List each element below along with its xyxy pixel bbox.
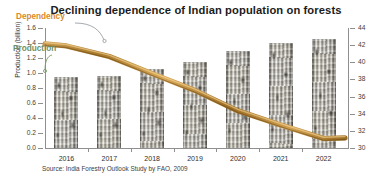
annotation-leader-lines	[0, 0, 392, 178]
chart-container: Declining dependence of Indian populatio…	[0, 0, 392, 178]
source-note: Source: India Forestry Outlook Study by …	[42, 165, 188, 172]
